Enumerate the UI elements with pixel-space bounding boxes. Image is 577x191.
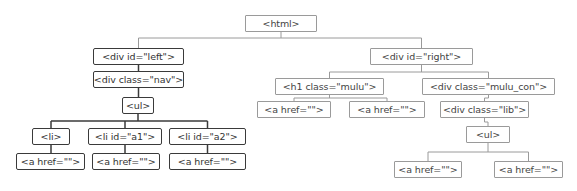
tree-node-div-left: <div id="left"> [93, 48, 184, 65]
tree-node-div-nav: <div class="nav"> [93, 71, 184, 88]
tree-node-a-l2: <a href=""> [92, 153, 160, 170]
tree-node-html: <html> [245, 15, 317, 32]
tree-node-a-l1: <a href=""> [16, 153, 85, 170]
tree-node-div-right: <div id="right"> [370, 48, 473, 65]
tree-node-a-r1: <a href=""> [257, 101, 331, 118]
tree-node-ul-left: <ul> [122, 97, 154, 114]
dom-tree-diagram: <html><div id="left"><div class="nav"><u… [0, 0, 577, 191]
tree-node-a-r2: <a href=""> [349, 101, 425, 118]
tree-node-div-lib: <div class="lib"> [440, 101, 529, 118]
tree-node-a-r3: <a href=""> [394, 161, 462, 178]
tree-node-li-a2: <li id="a2"> [169, 128, 246, 145]
tree-node-a-l3: <a href=""> [169, 153, 246, 170]
tree-node-li-a1: <li id="a1"> [88, 128, 162, 145]
tree-node-a-r4: <a href=""> [494, 161, 563, 178]
tree-node-ul-right: <ul> [466, 126, 510, 143]
tree-node-li: <li> [32, 128, 70, 145]
tree-node-div-mulu-con: <div class="mulu_con"> [422, 78, 555, 95]
tree-node-h1-mulu: <h1 class="mulu"> [275, 78, 384, 95]
